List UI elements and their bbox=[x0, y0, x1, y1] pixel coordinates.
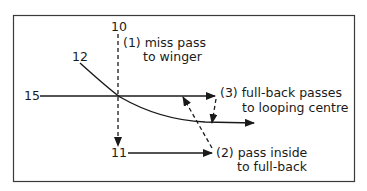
step1-line1: (1) miss pass bbox=[123, 35, 206, 50]
step3-line1: (3) full-back passes bbox=[220, 85, 342, 100]
player-10-label: 10 bbox=[111, 19, 127, 34]
step3-line2: to looping centre bbox=[242, 100, 349, 115]
rugby-move-diagram: 10 12 15 11 (1) miss pass to winger (3) … bbox=[0, 0, 367, 191]
step2-line1: (2) pass inside bbox=[216, 145, 308, 160]
step1-line2: to winger bbox=[143, 49, 203, 64]
player-15-label: 15 bbox=[24, 88, 40, 103]
player-11-label: 11 bbox=[111, 145, 127, 160]
player-12-label: 12 bbox=[72, 49, 88, 64]
step2-line2: to full-back bbox=[237, 159, 308, 174]
fullback-pass-dashed-arrow bbox=[212, 99, 216, 123]
